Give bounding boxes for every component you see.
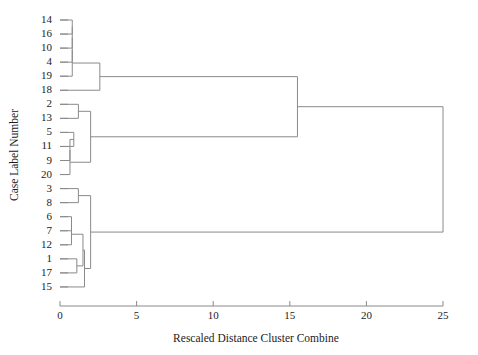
cluster-link: [60, 150, 70, 175]
case-label: 19: [41, 69, 53, 81]
case-label: 15: [41, 280, 53, 292]
case-label: 18: [41, 83, 53, 95]
case-label: 1: [47, 252, 53, 264]
case-label: 13: [41, 111, 53, 123]
case-label: 8: [47, 196, 53, 208]
case-label: 5: [47, 125, 53, 137]
cluster-link: [60, 189, 78, 203]
cluster-link: [60, 139, 74, 160]
case-label: 14: [41, 13, 53, 25]
dendrogram-svg: 1416104191821351192038671211715 05101520…: [0, 0, 478, 355]
case-label: 6: [47, 210, 53, 222]
cluster-link: [60, 224, 71, 245]
x-tick-label: 20: [361, 309, 373, 321]
cluster-link: [60, 259, 77, 273]
x-tick-label: 0: [57, 309, 63, 321]
case-label: 17: [41, 266, 53, 278]
cluster-link: [60, 20, 72, 34]
x-axis-title: Rescaled Distance Cluster Combine: [173, 332, 339, 344]
dendrogram-chart: 1416104191821351192038671211715 05101520…: [0, 0, 478, 355]
case-label: 4: [47, 55, 53, 67]
x-tick-label: 10: [208, 309, 220, 321]
cluster-link-group: [60, 20, 443, 287]
cluster-link: [60, 104, 78, 118]
case-label: 12: [41, 238, 52, 250]
case-label: 3: [47, 182, 53, 194]
x-axis: [60, 301, 443, 306]
cluster-link: [60, 50, 72, 76]
leaf-stub-group: [60, 20, 68, 287]
x-tick-label: 15: [284, 309, 296, 321]
cluster-link: [70, 111, 91, 162]
x-tick-label: 25: [438, 309, 450, 321]
cluster-link: [91, 107, 443, 232]
y-axis-title: Case Label Number: [8, 109, 20, 201]
case-label: 11: [41, 139, 52, 151]
case-label: 9: [47, 154, 53, 166]
case-label: 2: [47, 97, 53, 109]
case-label: 7: [47, 224, 53, 236]
case-label: 10: [41, 41, 53, 53]
cluster-link: [60, 250, 85, 287]
cluster-link: [60, 38, 72, 63]
x-tick-label-group: 0510152025: [57, 309, 449, 321]
case-label: 16: [41, 27, 53, 39]
cluster-link: [60, 217, 71, 231]
x-tick-label: 5: [134, 309, 140, 321]
cluster-link: [60, 27, 72, 48]
case-label: 20: [41, 168, 53, 180]
cluster-link: [91, 77, 298, 137]
case-label-group: 1416104191821351192038671211715: [41, 13, 53, 292]
